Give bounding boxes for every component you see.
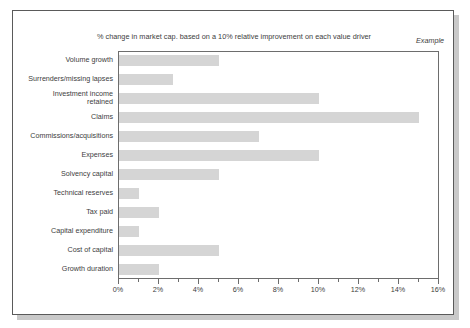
bar <box>119 150 319 161</box>
category-label: Commissions/acquisitions <box>0 132 113 140</box>
x-axis-tick-labels: 0%2%4%6%8%10%12%14%16% <box>118 285 439 297</box>
major-tick <box>318 279 319 284</box>
x-tick-label: 6% <box>233 285 243 294</box>
major-tick <box>158 279 159 284</box>
chart-page: % change in market cap. based on a 10% r… <box>0 0 470 328</box>
minor-tick <box>178 279 179 282</box>
x-tick-label: 14% <box>391 285 405 294</box>
x-tick-label: 12% <box>351 285 365 294</box>
bar-row <box>119 147 440 166</box>
category-label: Investment income retained <box>0 90 113 107</box>
bar-row <box>119 185 440 204</box>
chart-frame: % change in market cap. based on a 10% r… <box>12 10 454 315</box>
minor-tick <box>418 279 419 282</box>
minor-tick <box>258 279 259 282</box>
bar <box>119 169 219 180</box>
category-label: Growth duration <box>0 265 113 273</box>
bar-row <box>119 261 440 280</box>
bar <box>119 245 219 256</box>
example-annotation: Example <box>416 36 444 45</box>
major-tick <box>118 279 119 284</box>
minor-tick <box>378 279 379 282</box>
category-label: Expenses <box>0 151 113 159</box>
category-label: Claims <box>0 113 113 121</box>
major-tick <box>198 279 199 284</box>
major-tick <box>438 279 439 284</box>
category-label: Capital expenditure <box>0 227 113 235</box>
bar-row <box>119 204 440 223</box>
bar-row <box>119 166 440 185</box>
bar <box>119 112 419 123</box>
category-label: Cost of capital <box>0 246 113 254</box>
bar-series <box>119 52 438 278</box>
major-tick <box>238 279 239 284</box>
bar-row <box>119 223 440 242</box>
x-tick-label: 2% <box>153 285 163 294</box>
category-label: Tax paid <box>0 208 113 216</box>
bar <box>119 131 259 142</box>
bar-row <box>119 128 440 147</box>
x-tick-label: 10% <box>311 285 325 294</box>
bar-row <box>119 71 440 90</box>
bar-row <box>119 109 440 128</box>
bar <box>119 55 219 66</box>
bar <box>119 226 139 237</box>
x-tick-label: 0% <box>113 285 123 294</box>
minor-tick <box>298 279 299 282</box>
bar <box>119 93 319 104</box>
category-label: Technical reserves <box>0 189 113 197</box>
bar-row <box>119 90 440 109</box>
x-tick-label: 4% <box>193 285 203 294</box>
plot-area <box>118 51 439 279</box>
chart-title: % change in market cap. based on a 10% r… <box>13 32 455 41</box>
major-tick <box>278 279 279 284</box>
bar-row <box>119 242 440 261</box>
category-label: Solvency capital <box>0 170 113 178</box>
category-label: Volume growth <box>0 56 113 64</box>
minor-tick <box>138 279 139 282</box>
bar <box>119 74 173 85</box>
category-label: Surrenders/missing lapses <box>0 75 113 83</box>
x-tick-label: 8% <box>273 285 283 294</box>
bar <box>119 264 159 275</box>
major-tick <box>398 279 399 284</box>
minor-tick <box>218 279 219 282</box>
major-tick <box>358 279 359 284</box>
bar-row <box>119 52 440 71</box>
bar <box>119 207 159 218</box>
bar <box>119 188 139 199</box>
minor-tick <box>338 279 339 282</box>
x-tick-label: 16% <box>431 285 445 294</box>
